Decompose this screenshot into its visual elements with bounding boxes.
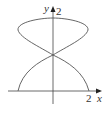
y-axis-arrow-icon bbox=[51, 6, 56, 12]
curve-lower-right bbox=[53, 55, 89, 91]
y-tick-label-2: 2 bbox=[56, 5, 62, 17]
x-tick-label-2: 2 bbox=[86, 92, 92, 104]
curve-lower-left bbox=[18, 55, 53, 91]
y-axis-label: y bbox=[43, 2, 49, 14]
curve-plot: y 2 2 x bbox=[0, 0, 112, 117]
x-axis-label: x bbox=[96, 92, 102, 104]
